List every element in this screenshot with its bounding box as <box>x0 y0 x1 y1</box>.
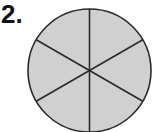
fraction-circle <box>0 0 153 132</box>
